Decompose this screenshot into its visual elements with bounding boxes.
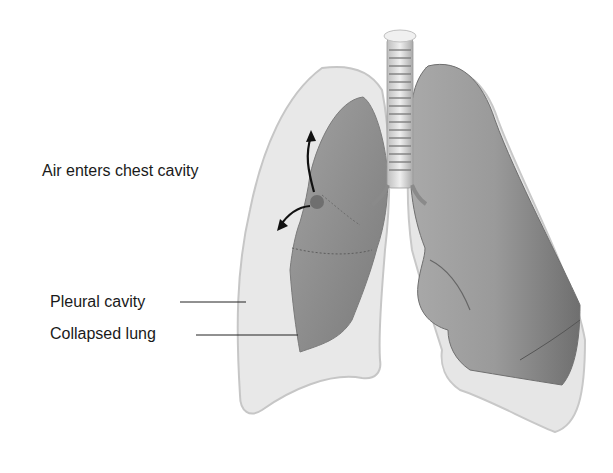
air-enters-label: Air enters chest cavity <box>42 163 199 179</box>
pleural-cavity-label: Pleural cavity <box>50 294 145 310</box>
lung-illustration <box>0 0 613 473</box>
collapsed-lung-label: Collapsed lung <box>50 326 156 342</box>
larynx-top <box>384 30 416 42</box>
lung-tear <box>310 195 324 209</box>
trachea <box>387 38 413 188</box>
